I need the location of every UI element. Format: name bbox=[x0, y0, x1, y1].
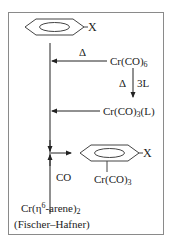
reagent-cr-co6: Cr(CO)6 bbox=[110, 55, 148, 67]
reagent-cr-arene2: Cr(η6-arene)2 bbox=[21, 202, 81, 214]
substituent-x-top: X bbox=[88, 21, 97, 33]
heat-label-side: Δ bbox=[119, 77, 126, 89]
heat-label-top: Δ bbox=[79, 46, 86, 58]
product-arene-ring-icon bbox=[80, 145, 143, 172]
product-metal-fragment: Cr(CO)3 bbox=[94, 173, 132, 185]
co-label: CO bbox=[56, 171, 71, 183]
arene-ring-icon bbox=[25, 19, 88, 35]
substituent-x-product: X bbox=[143, 147, 152, 159]
ligand-label: 3L bbox=[137, 77, 149, 89]
reagent-cr-co3-l: Cr(CO)3(L) bbox=[103, 105, 155, 117]
fischer-hafner-label: (Fischer–Hafner) bbox=[14, 218, 90, 230]
